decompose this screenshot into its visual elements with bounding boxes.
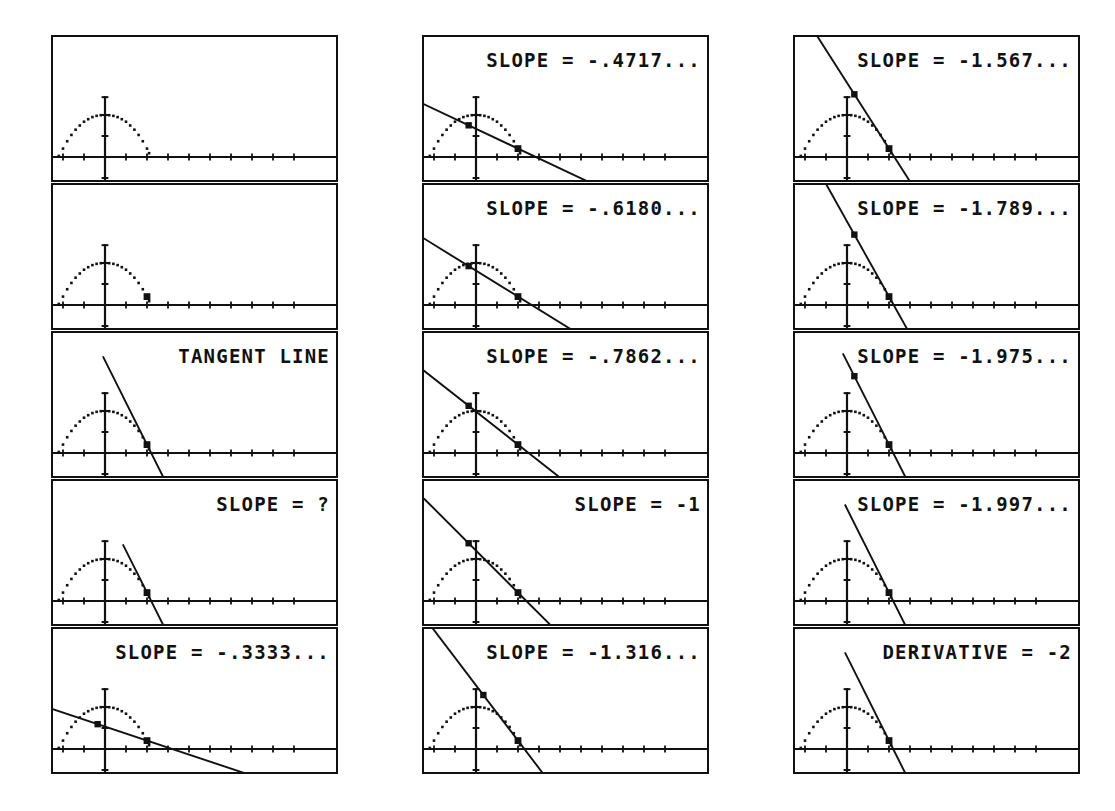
tangent-line <box>424 481 566 624</box>
curve-dot <box>500 124 503 127</box>
curve-dot <box>148 152 151 155</box>
curve-dot <box>867 268 870 271</box>
curve-dot <box>492 562 495 565</box>
curve-dot <box>504 572 507 575</box>
curve-dot <box>433 739 436 742</box>
curve-dot <box>133 572 136 575</box>
curve-dot <box>825 416 828 419</box>
screen-status-label: SLOPE = -.6180... <box>486 199 701 218</box>
curve-dot <box>462 412 465 415</box>
curve-dot <box>821 568 824 571</box>
curve-dot <box>87 118 90 121</box>
curve-dot <box>62 443 65 446</box>
curve-dot <box>829 118 832 121</box>
curve-dot <box>850 706 853 709</box>
curve-dot <box>816 128 819 131</box>
curve-dot <box>437 140 440 143</box>
anchor-cursor-marker <box>886 441 893 448</box>
secant-cursor-marker <box>465 540 471 546</box>
curve-dot <box>513 140 516 143</box>
curve-dot <box>871 716 874 719</box>
curve-dot <box>466 115 469 118</box>
anchor-cursor-marker <box>886 737 893 744</box>
secant-cursor-marker <box>480 692 486 698</box>
curve-dot <box>804 591 807 594</box>
curve-dot <box>825 268 828 271</box>
curve-dot <box>133 720 136 723</box>
curve-dot <box>79 124 82 127</box>
curve-dot <box>137 282 140 285</box>
screen-column-2: SLOPE = -.4717...SLOPE = -.6180...SLOPE … <box>422 35 709 775</box>
curve-dot <box>100 262 103 265</box>
curve-dot <box>504 128 507 131</box>
curve-dot <box>854 263 857 266</box>
curve-dot <box>500 272 503 275</box>
screen-column-3: SLOPE = -1.567...SLOPE = -1.789...SLOPE … <box>793 35 1080 775</box>
curve-dot <box>66 584 69 587</box>
curve-dot <box>800 451 803 454</box>
anchor-cursor-marker <box>144 441 151 448</box>
curve-dot <box>100 706 103 709</box>
curve-dot <box>91 708 94 711</box>
anchor-cursor-marker <box>144 293 151 300</box>
curve-dot <box>496 416 499 419</box>
screen-status-label: SLOPE = -1.997... <box>857 495 1072 514</box>
curve-dot <box>808 288 811 291</box>
calculator-screen: SLOPE = -.4717... <box>422 35 709 182</box>
curve-dot <box>487 264 490 267</box>
curve-dot <box>70 578 73 581</box>
anchor-cursor-marker <box>886 293 893 300</box>
curve-dot <box>95 707 98 710</box>
curve-dot <box>808 436 811 439</box>
curve-dot <box>804 147 807 150</box>
curve-dot <box>854 411 857 414</box>
curve-dot <box>519 152 522 155</box>
screen-status-label: SLOPE = -1.567... <box>857 51 1072 70</box>
curve-dot <box>475 558 478 561</box>
tangent-line <box>845 505 921 624</box>
curve-dot <box>133 276 136 279</box>
curve-dot <box>108 706 111 709</box>
curve-dot <box>137 726 140 729</box>
anchor-cursor-marker <box>144 737 151 744</box>
curve-dot <box>479 262 482 265</box>
secant-cursor-marker <box>465 263 471 269</box>
curve-dot <box>83 712 86 715</box>
curve-dot <box>812 282 815 285</box>
curve-dot <box>108 558 111 561</box>
curve-dot <box>496 564 499 567</box>
curve-dot <box>112 411 115 414</box>
curve-dot <box>821 124 824 127</box>
secant-cursor-marker <box>465 403 471 409</box>
curve-dot <box>79 568 82 571</box>
curve-dot <box>445 276 448 279</box>
anchor-cursor-marker <box>515 737 522 744</box>
curve-dot <box>450 272 453 275</box>
screen-column-1: TANGENT LINESLOPE = ?SLOPE = -.3333... <box>51 35 338 775</box>
calculator-screen: SLOPE = -1.997... <box>793 479 1080 626</box>
curve-dot <box>125 564 128 567</box>
curve-dot <box>829 562 832 565</box>
curve-dot <box>850 410 853 413</box>
curve-dot <box>816 572 819 575</box>
curve-dot <box>104 114 107 117</box>
curve-dot <box>833 560 836 563</box>
calculator-screen: SLOPE = -1.975... <box>793 331 1080 478</box>
curve-dot <box>821 716 824 719</box>
curve-dot <box>858 708 861 711</box>
secant-cursor-marker <box>851 231 857 237</box>
curve-dot <box>863 118 866 121</box>
curve-dot <box>74 424 77 427</box>
curve-dot <box>863 562 866 565</box>
curve-dot <box>471 410 474 413</box>
curve-dot <box>504 424 507 427</box>
calculator-screen: SLOPE = -1.789... <box>793 183 1080 330</box>
curve-dot <box>116 708 119 711</box>
curve-dot <box>62 739 65 742</box>
curve-dot <box>858 560 861 563</box>
curve-dot <box>112 115 115 118</box>
screen-status-label: SLOPE = -1 <box>575 495 701 514</box>
curve-dot <box>95 263 98 266</box>
curve-dot <box>846 262 849 265</box>
curve-dot <box>95 559 98 562</box>
